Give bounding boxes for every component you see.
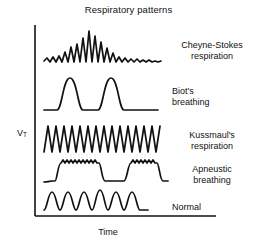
waveform-plot xyxy=(0,0,257,242)
trace-label-line1: Apneustic xyxy=(172,164,252,175)
trace-apneustic xyxy=(44,160,168,182)
trace-normal xyxy=(44,190,148,210)
trace-label-normal: Normal xyxy=(172,202,201,213)
trace-label-line1: Normal xyxy=(172,202,201,213)
respiratory-patterns-figure: Respiratory patterns VT Time Cheyne-Stok… xyxy=(0,0,257,242)
trace-label-line2: respiration xyxy=(172,141,252,152)
trace-label-kussmauls: Kussmaul's respiration xyxy=(172,130,252,151)
trace-label-line1: Kussmaul's xyxy=(172,130,252,141)
trace-label-line2: breathing xyxy=(172,97,210,108)
trace-label-line1: Biot's xyxy=(172,86,210,97)
trace-label-line2: breathing xyxy=(172,175,252,186)
trace-label-apneustic: Apneustic breathing xyxy=(172,164,252,185)
trace-label-cheyne-stokes: Cheyne-Stokes respiration xyxy=(172,40,252,61)
trace-biots xyxy=(44,78,158,110)
trace-kussmauls xyxy=(44,126,160,152)
trace-cheyne-stokes xyxy=(44,31,161,62)
trace-label-biots: Biot's breathing xyxy=(172,86,210,107)
trace-label-line1: Cheyne-Stokes xyxy=(172,40,252,51)
trace-label-line2: respiration xyxy=(172,51,252,62)
